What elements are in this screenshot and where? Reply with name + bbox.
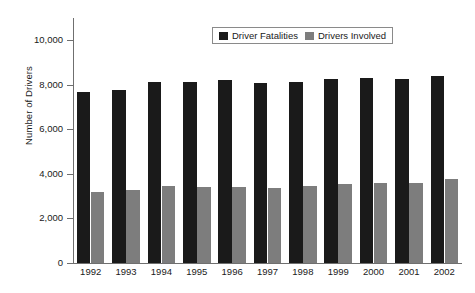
bar-driver-fatalities — [431, 76, 445, 263]
bar-drivers-involved — [374, 183, 388, 263]
y-tick-label: 2,000 — [0, 213, 63, 223]
legend-item: Drivers Involved — [305, 31, 386, 41]
legend-item: Driver Fatalities — [219, 31, 298, 41]
x-tick-label: 2001 — [391, 266, 426, 277]
bar-group — [77, 18, 105, 263]
legend-label: Driver Fatalities — [232, 31, 298, 41]
bar-group — [218, 18, 246, 263]
x-tick-label: 1993 — [108, 266, 143, 277]
bar-drivers-involved — [91, 192, 105, 263]
bar-driver-fatalities — [324, 79, 338, 263]
bar-driver-fatalities — [77, 92, 91, 263]
y-tick-label: 0 — [0, 258, 63, 268]
bar-drivers-involved — [338, 184, 352, 263]
bar-group — [183, 18, 211, 263]
bar-drivers-involved — [445, 179, 459, 263]
bar-drivers-involved — [409, 183, 423, 263]
y-tick-label: 8,000 — [0, 80, 63, 90]
bar-drivers-involved — [232, 187, 246, 263]
bar-driver-fatalities — [289, 82, 303, 263]
bar-group — [289, 18, 317, 263]
chart-legend: Driver FatalitiesDrivers Involved — [212, 27, 393, 44]
y-tick-label: 10,000 — [0, 35, 63, 45]
x-tick-label: 2002 — [427, 266, 462, 277]
x-tick-label: 1995 — [179, 266, 214, 277]
x-tick-label: 1992 — [73, 266, 108, 277]
x-axis-line — [73, 263, 462, 264]
legend-swatch-icon — [219, 32, 228, 40]
bar-group — [360, 18, 388, 263]
legend-label: Drivers Involved — [318, 31, 386, 41]
x-tick-label: 1999 — [321, 266, 356, 277]
bar-group — [148, 18, 176, 263]
bar-driver-fatalities — [148, 82, 162, 263]
bar-chart: Number of Drivers 02,0004,0006,0008,0001… — [0, 0, 475, 293]
bar-driver-fatalities — [395, 79, 409, 263]
x-tick-label: 1997 — [250, 266, 285, 277]
bar-group — [254, 18, 282, 263]
bar-drivers-involved — [268, 188, 282, 263]
bar-drivers-involved — [197, 187, 211, 263]
bar-drivers-involved — [162, 186, 176, 263]
bar-drivers-involved — [126, 190, 140, 263]
bar-drivers-involved — [303, 186, 317, 263]
bar-driver-fatalities — [183, 82, 197, 263]
x-tick-label: 1994 — [144, 266, 179, 277]
legend-swatch-icon — [305, 32, 314, 40]
bar-group — [431, 18, 459, 263]
y-tick-label: 6,000 — [0, 124, 63, 134]
x-tick-label: 1996 — [214, 266, 249, 277]
x-tick-label: 2000 — [356, 266, 391, 277]
y-tick — [67, 263, 73, 264]
x-tick-label: 1998 — [285, 266, 320, 277]
bar-group — [395, 18, 423, 263]
bar-driver-fatalities — [112, 90, 126, 263]
bar-driver-fatalities — [360, 78, 374, 263]
bar-driver-fatalities — [254, 83, 268, 263]
y-tick-label: 4,000 — [0, 169, 63, 179]
bar-group — [112, 18, 140, 263]
bar-driver-fatalities — [218, 80, 232, 263]
bar-group — [324, 18, 352, 263]
plot-area — [73, 18, 462, 263]
